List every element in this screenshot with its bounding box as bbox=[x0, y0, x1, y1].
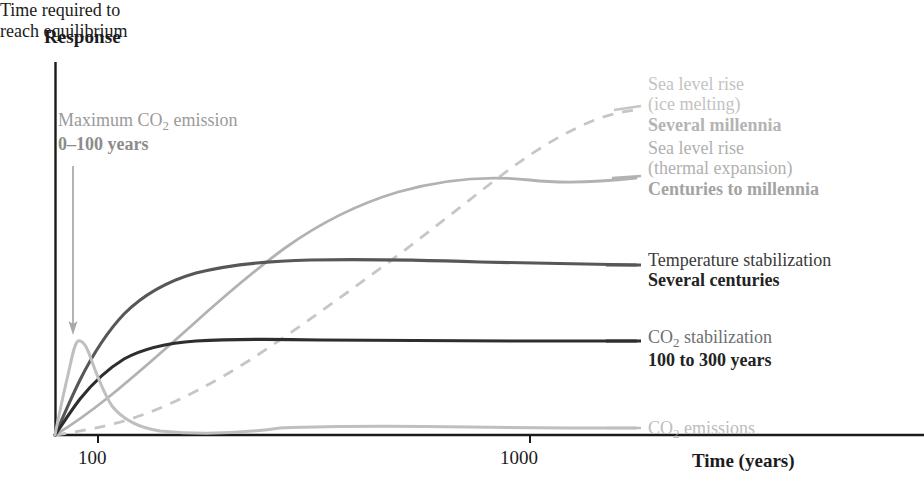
x-tick-label-100: 100 bbox=[78, 447, 107, 469]
legend-item-co2-emissions-name: CO2 emissions bbox=[648, 418, 755, 441]
x-tick-label-1000: 1000 bbox=[500, 447, 538, 469]
legend-item-thermal-expansion-line2: (thermal expansion) bbox=[648, 158, 819, 178]
y-axis-title: Response bbox=[44, 26, 121, 48]
legend-connector-ice-melting bbox=[614, 106, 641, 110]
legend-item-thermal-expansion[interactable]: Sea level rise (thermal expansion) Centu… bbox=[648, 138, 819, 199]
max-emission-annotation-name: Maximum CO2 emission bbox=[58, 110, 238, 130]
legend-item-ice-melting[interactable]: Sea level rise (ice melting) Several mil… bbox=[648, 74, 782, 135]
legend-item-ice-melting-line1: Sea level rise bbox=[648, 74, 782, 94]
series-line-ice-melting bbox=[55, 110, 636, 435]
series-line-thermal-expansion bbox=[55, 178, 636, 435]
legend-item-co2-stabilization[interactable]: CO2 stabilization 100 to 300 years bbox=[648, 327, 772, 371]
legend-item-co2-stabilization-time: 100 to 300 years bbox=[648, 350, 772, 370]
climate-response-figure: Response Time (years) 100 1000 Maximum C… bbox=[0, 0, 924, 498]
legend-item-thermal-expansion-time: Centuries to millennia bbox=[648, 179, 819, 199]
series-line-temperature-stabilization bbox=[55, 260, 636, 435]
legend-item-co2-stabilization-name: CO2 stabilization bbox=[648, 327, 772, 350]
series-line-co2-emissions bbox=[55, 341, 636, 435]
legend-item-temperature-stabilization-time: Several centuries bbox=[648, 270, 831, 290]
legend-item-thermal-expansion-line1: Sea level rise bbox=[648, 138, 819, 158]
series-line-co2-stabilization bbox=[55, 339, 636, 435]
legend-item-ice-melting-time: Several millennia bbox=[648, 115, 782, 135]
legend-item-co2-emissions[interactable]: CO2 emissions bbox=[648, 418, 755, 441]
legend-item-temperature-stabilization[interactable]: Temperature stabilization Several centur… bbox=[648, 250, 831, 291]
chart-canvas bbox=[0, 0, 924, 498]
legend-item-ice-melting-line2: (ice melting) bbox=[648, 94, 782, 114]
down-arrow-icon bbox=[69, 166, 78, 335]
max-emission-annotation-time: 0–100 years bbox=[58, 134, 238, 155]
legend-connectors bbox=[606, 106, 641, 428]
legend-item-temperature-stabilization-name: Temperature stabilization bbox=[648, 250, 831, 270]
x-axis-title: Time (years) bbox=[692, 450, 795, 472]
max-emission-annotation: Maximum CO2 emission 0–100 years bbox=[58, 110, 238, 155]
